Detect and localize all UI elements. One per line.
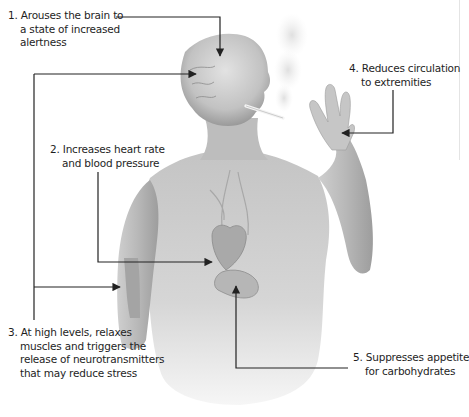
callout-1-brain-arousal: 1. Arouses the brain to a state of incre… (8, 9, 123, 50)
callout-5-appetite: 5. Suppresses appetite for carbohydrates (353, 351, 469, 378)
adjacent-panel-edge (459, 0, 469, 160)
smoke (274, 13, 308, 112)
callout-3-muscle-relaxation: 3. At high levels, relaxes muscles and t… (8, 326, 164, 380)
head (181, 34, 270, 126)
callout-4-circulation: 4. Reduces circulation to extremities (349, 62, 460, 89)
callout-2-heart-rate: 2. Increases heart rate and blood pressu… (50, 143, 165, 170)
hand (310, 84, 355, 150)
